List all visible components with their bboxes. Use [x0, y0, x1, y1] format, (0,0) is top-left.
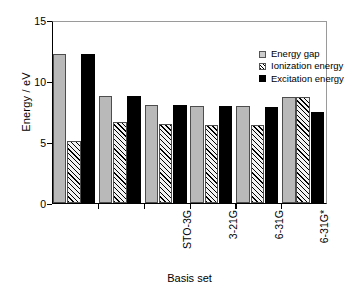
- legend-swatch-excitation-energy: [259, 75, 266, 82]
- y-tick-label-5: 5: [0, 138, 46, 148]
- y-tick-label-15: 15: [0, 16, 46, 26]
- x-tick-mark-1: [98, 204, 99, 209]
- bar-3-21g-excitation-energy: [127, 96, 141, 203]
- legend-item-ionization-energy: Ionization energy: [259, 60, 344, 72]
- x-tick-mark-4: [235, 204, 236, 209]
- y-axis-label: Energy / eV: [20, 27, 32, 177]
- bar-6-31g-ionization-energy: [159, 124, 173, 203]
- x-axis-label: Basis set: [52, 272, 327, 284]
- x-tick-mark-3: [190, 204, 191, 209]
- y-tick-label-10: 10: [0, 77, 46, 87]
- bar-6-31g--energy-gap: [236, 106, 250, 203]
- y-tick-mark-0: [47, 204, 52, 205]
- legend: Energy gap Ionization energy Excitation …: [259, 48, 344, 85]
- x-tick-mark-2: [144, 204, 145, 209]
- plot-area: Energy gap Ionization energy Excitation …: [52, 21, 327, 204]
- bar-6-31g--ionization-energy: [251, 125, 265, 203]
- legend-item-excitation-energy: Excitation energy: [259, 73, 344, 85]
- bar-chart: Energy / eV 051015 Energy gap Ionization…: [0, 0, 350, 295]
- bar-experiment-ionization-energy: [296, 97, 310, 203]
- legend-item-energy-gap: Energy gap: [259, 48, 344, 60]
- bar-6-31g--energy-gap: [190, 106, 204, 203]
- legend-label-ionization-energy: Ionization energy: [271, 60, 343, 72]
- bar-6-31g-energy-gap: [145, 105, 159, 203]
- bar-6-31g--excitation-energy: [265, 107, 279, 203]
- legend-label-excitation-energy: Excitation energy: [271, 73, 344, 85]
- bar-6-31g-excitation-energy: [173, 105, 187, 203]
- legend-swatch-ionization-energy: [259, 63, 266, 70]
- bar-sto-3g-ionization-energy: [67, 141, 81, 203]
- y-tick-label-0: 0: [0, 199, 46, 209]
- bar-sto-3g-excitation-energy: [81, 54, 95, 203]
- x-tick-mark-5: [281, 204, 282, 209]
- bar-6-31g--excitation-energy: [219, 106, 233, 203]
- bar-experiment-excitation-energy: [311, 112, 325, 204]
- bar-sto-3g-energy-gap: [53, 54, 67, 203]
- bar-experiment-energy-gap: [282, 97, 296, 203]
- bar-3-21g-energy-gap: [99, 96, 113, 203]
- legend-label-energy-gap: Energy gap: [271, 48, 320, 60]
- bar-3-21g-ionization-energy: [113, 122, 127, 203]
- bar-6-31g--ionization-energy: [205, 125, 219, 203]
- legend-swatch-energy-gap: [259, 51, 266, 58]
